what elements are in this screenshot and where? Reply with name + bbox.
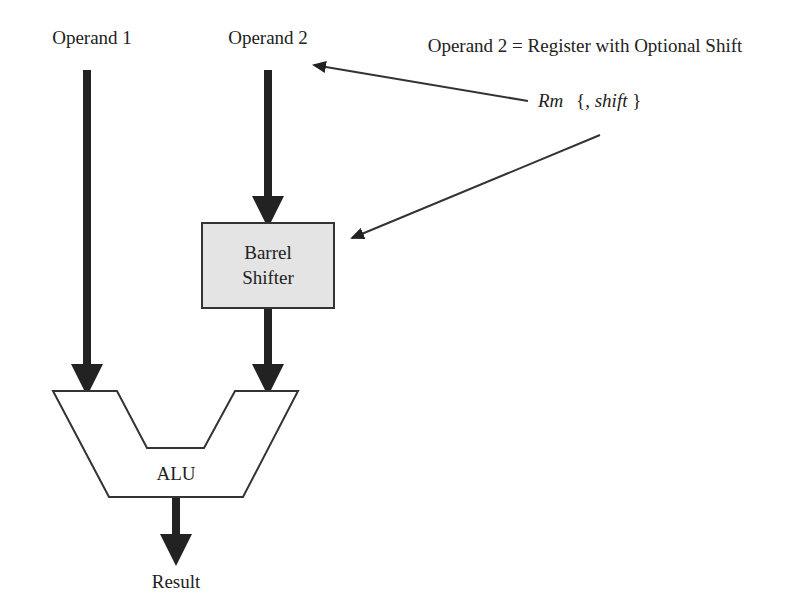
annotation-arrow-to-operand2 [314, 65, 528, 101]
register-spec: Rm {, shift } [537, 90, 641, 111]
shift-open: {, [576, 90, 595, 111]
operand1-label: Operand 1 [52, 27, 132, 48]
barrel-shifter-line2: Shifter [242, 267, 294, 288]
register-label: Rm [537, 90, 563, 111]
barrel-shifter-diagram: Operand 1 Operand 2 Operand 2 = Register… [0, 0, 808, 612]
result-label: Result [152, 571, 201, 592]
barrel-shifter-line1: Barrel [244, 242, 291, 263]
annotation-title: Operand 2 = Register with Optional Shift [428, 35, 743, 56]
operand2-label: Operand 2 [228, 27, 308, 48]
barrel-shifter-box [202, 223, 334, 308]
shift-label: shift [595, 90, 628, 111]
alu-label: ALU [156, 463, 195, 484]
shift-close: } [632, 90, 641, 111]
annotation-arrow-to-shifter [352, 135, 600, 238]
